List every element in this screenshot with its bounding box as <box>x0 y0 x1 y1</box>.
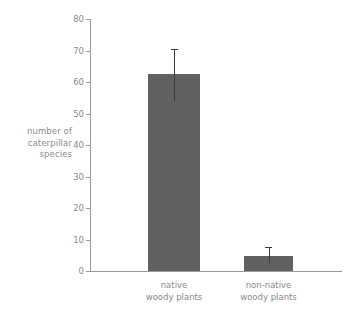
y-axis-title-line-2: caterpillar <box>4 138 72 150</box>
y-tick-mark <box>86 177 90 178</box>
x-axis-line <box>90 271 342 272</box>
y-tick-label: 10 <box>73 235 84 245</box>
y-tick-mark <box>86 82 90 83</box>
y-tick-mark <box>86 271 90 272</box>
y-tick-label: 50 <box>73 109 84 119</box>
x-axis-category-label-line-1: non-native <box>209 280 329 292</box>
error-bar-line <box>174 49 175 101</box>
y-tick-mark <box>86 19 90 20</box>
y-tick-mark <box>86 114 90 115</box>
y-tick-label: 80 <box>73 14 84 24</box>
y-tick-mark <box>86 240 90 241</box>
y-tick-label: 30 <box>73 172 84 182</box>
error-bar-cap-upper <box>265 247 272 248</box>
y-axis-line <box>90 19 91 271</box>
error-bar-line <box>269 247 270 263</box>
error-bar-cap-upper <box>171 49 178 50</box>
y-tick-mark <box>86 208 90 209</box>
bar-chart: number of caterpillar species 0102030405… <box>0 0 356 316</box>
y-tick-mark <box>86 51 90 52</box>
y-tick-label: 70 <box>73 46 84 56</box>
x-axis-category-label-line-2: woody plants <box>209 292 329 304</box>
y-tick-label: 0 <box>79 266 84 276</box>
y-axis-title-line-1: number of <box>4 126 72 138</box>
y-tick-mark <box>86 145 90 146</box>
y-tick-label: 40 <box>73 140 84 150</box>
y-axis-title: number of caterpillar species <box>4 126 72 161</box>
y-axis-title-line-3: species <box>4 149 72 161</box>
y-tick-label: 20 <box>73 203 84 213</box>
bar <box>148 74 200 271</box>
y-tick-label: 60 <box>73 77 84 87</box>
plot-area: 01020304050607080 <box>90 19 342 271</box>
x-axis-category-label: non-nativewoody plants <box>209 280 329 303</box>
